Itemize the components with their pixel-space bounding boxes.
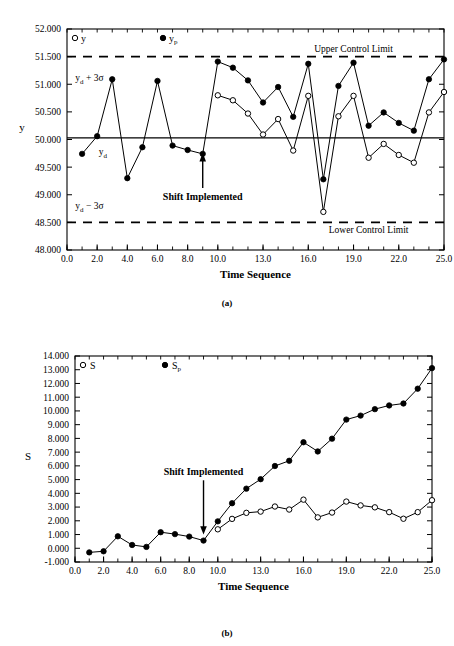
svg-text:1.000: 1.000 [48,530,70,540]
svg-text:11.000: 11.000 [43,393,69,403]
svg-text:14.000: 14.000 [43,351,69,361]
svg-text:8.0: 8.0 [183,566,195,576]
svg-text:Time Sequence: Time Sequence [220,268,291,280]
svg-text:13.0: 13.0 [252,566,269,576]
svg-text:6.0: 6.0 [152,254,164,264]
svg-text:Shift Implemented: Shift Implemented [164,466,244,477]
svg-text:19.0: 19.0 [345,254,362,264]
svg-text:yd: yd [99,147,108,160]
svg-text:49.500: 49.500 [35,163,61,173]
figure-container: 48.00048.50049.00049.50050.00050.50051.0… [0,0,454,646]
svg-text:Upper Control Limit: Upper Control Limit [314,44,393,54]
svg-text:7.000: 7.000 [48,448,70,458]
svg-text:Time Sequence: Time Sequence [218,580,289,592]
svg-text:4.000: 4.000 [48,489,70,499]
svg-text:25.0: 25.0 [436,254,453,264]
chart-panel-b: -1.0000.0001.0002.0003.0004.0005.0006.00… [0,320,454,646]
svg-text:0.000: 0.000 [48,544,70,554]
svg-text:48.000: 48.000 [35,245,61,255]
svg-text:2.000: 2.000 [48,516,70,526]
svg-text:10.000: 10.000 [43,406,69,416]
svg-text:8.000: 8.000 [48,434,70,444]
svg-text:4.0: 4.0 [121,254,133,264]
svg-text:yp: yp [169,33,178,47]
subfigure-label-b: (b) [0,628,454,638]
svg-text:0.0: 0.0 [69,566,81,576]
svg-text:19.0: 19.0 [338,566,355,576]
svg-text:52.000: 52.000 [35,24,61,34]
svg-text:13.0: 13.0 [255,254,272,264]
svg-text:51.500: 51.500 [35,52,61,62]
svg-text:3.000: 3.000 [48,502,70,512]
svg-text:10.0: 10.0 [209,566,226,576]
svg-text:50.000: 50.000 [35,135,61,145]
svg-text:6.000: 6.000 [48,461,70,471]
svg-text:8.0: 8.0 [182,254,194,264]
svg-text:10.0: 10.0 [209,254,226,264]
svg-text:S: S [25,450,31,462]
svg-text:50.500: 50.500 [35,107,61,117]
svg-text:S: S [90,360,96,371]
svg-text:16.0: 16.0 [295,566,312,576]
svg-text:4.0: 4.0 [126,566,138,576]
chart-panel-a: 48.00048.50049.00049.50050.00050.50051.0… [0,0,454,320]
svg-text:6.0: 6.0 [155,566,167,576]
svg-text:9.000: 9.000 [48,420,70,430]
svg-text:0.0: 0.0 [61,254,73,264]
svg-text:22.0: 22.0 [381,566,398,576]
svg-text:2.0: 2.0 [98,566,110,576]
subfigure-label-a: (a) [0,298,454,308]
svg-text:-1.000: -1.000 [44,557,69,567]
svg-text:Lower Control Limit: Lower Control Limit [329,225,409,235]
svg-text:22.0: 22.0 [390,254,407,264]
svg-text:2.0: 2.0 [91,254,103,264]
chart-a-canvas: 48.00048.50049.00049.50050.00050.50051.0… [0,0,454,320]
svg-text:49.000: 49.000 [35,190,61,200]
svg-text:Sp: Sp [172,360,182,374]
svg-text:yd + 3σ: yd + 3σ [75,73,103,86]
svg-text:y: y [19,121,25,133]
svg-text:Shift Implemented: Shift Implemented [163,191,243,202]
svg-text:16.0: 16.0 [300,254,317,264]
svg-text:y: y [81,33,86,44]
svg-text:12.000: 12.000 [43,379,69,389]
svg-text:51.000: 51.000 [35,80,61,90]
svg-text:13.000: 13.000 [43,365,69,375]
svg-text:48.500: 48.500 [35,218,61,228]
svg-text:25.0: 25.0 [424,566,441,576]
svg-text:yd − 3σ: yd − 3σ [75,201,103,214]
chart-b-canvas: -1.0000.0001.0002.0003.0004.0005.0006.00… [0,320,454,646]
svg-text:5.000: 5.000 [48,475,70,485]
